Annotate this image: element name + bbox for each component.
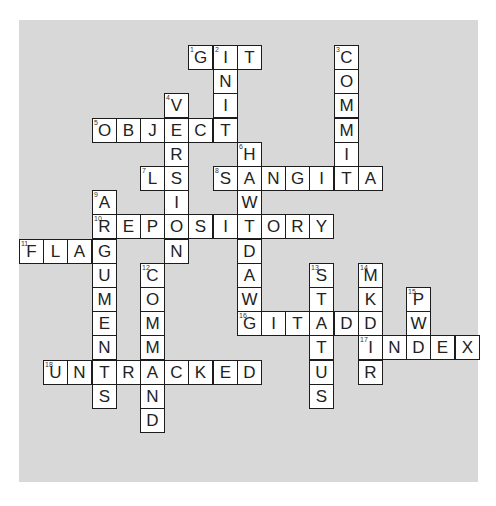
crossword-cell[interactable]: N <box>382 335 407 360</box>
crossword-cell[interactable]: 2I <box>213 45 238 70</box>
crossword-cell[interactable]: W <box>237 287 262 312</box>
crossword-cell[interactable]: R <box>116 360 141 385</box>
cell-letter: N <box>93 338 116 358</box>
cell-letter: I <box>262 314 285 334</box>
crossword-cell[interactable]: A <box>358 166 383 191</box>
crossword-cell[interactable]: T <box>285 311 310 336</box>
crossword-cell[interactable]: W <box>406 311 431 336</box>
crossword-cell[interactable]: 15P <box>406 287 431 312</box>
crossword-cell[interactable]: D <box>237 360 262 385</box>
crossword-cell[interactable]: 9A <box>92 190 117 215</box>
crossword-cell[interactable]: G <box>285 166 310 191</box>
crossword-cell[interactable]: D <box>237 239 262 264</box>
crossword-cell[interactable]: O <box>334 69 359 94</box>
crossword-cell[interactable]: T <box>213 118 238 143</box>
cell-letter: P <box>141 217 164 237</box>
crossword-cell[interactable]: J <box>140 118 165 143</box>
crossword-cell[interactable]: A <box>309 311 334 336</box>
crossword-cell[interactable]: A <box>67 239 92 264</box>
crossword-cell[interactable]: D <box>358 311 383 336</box>
crossword-cell[interactable]: 1G <box>188 45 213 70</box>
crossword-cell[interactable]: T <box>237 45 262 70</box>
crossword-cell[interactable]: 11F <box>19 239 44 264</box>
crossword-cell[interactable]: D <box>406 335 431 360</box>
crossword-cell[interactable]: M <box>334 93 359 118</box>
crossword-cell[interactable]: G <box>92 239 117 264</box>
crossword-cell[interactable]: U <box>92 263 117 288</box>
crossword-cell[interactable]: L <box>43 239 68 264</box>
crossword-cell[interactable]: 12C <box>140 263 165 288</box>
crossword-cell[interactable]: 4V <box>164 93 189 118</box>
crossword-cell[interactable]: M <box>140 335 165 360</box>
crossword-cell[interactable]: T <box>334 166 359 191</box>
crossword-cell[interactable]: M <box>334 118 359 143</box>
crossword-cell[interactable]: 13S <box>309 263 334 288</box>
crossword-cell[interactable]: 18U <box>43 360 68 385</box>
crossword-cell[interactable]: 17I <box>358 335 383 360</box>
crossword-cell[interactable]: T <box>92 360 117 385</box>
cell-letter: S <box>310 266 333 286</box>
cell-letter: S <box>310 387 333 407</box>
crossword-cell[interactable]: M <box>92 287 117 312</box>
crossword-cell[interactable]: X <box>455 335 480 360</box>
crossword-cell[interactable]: Y <box>309 214 334 239</box>
crossword-cell[interactable]: R <box>164 142 189 167</box>
cell-letter: K <box>189 363 212 383</box>
crossword-cell[interactable]: E <box>213 360 238 385</box>
crossword-cell[interactable]: T <box>309 287 334 312</box>
crossword-cell[interactable]: K <box>188 360 213 385</box>
crossword-cell[interactable]: O <box>164 214 189 239</box>
crossword-cell[interactable]: 8S <box>213 166 238 191</box>
crossword-grid: 1G2ITNIT3COMMIT4VERSION5OBJC6HAWTDAW16G7… <box>0 0 496 506</box>
crossword-cell[interactable]: T <box>237 214 262 239</box>
crossword-cell[interactable]: I <box>164 190 189 215</box>
cell-letter: U <box>310 363 333 383</box>
crossword-cell[interactable]: R <box>285 214 310 239</box>
crossword-cell[interactable]: N <box>213 69 238 94</box>
crossword-cell[interactable]: M <box>140 311 165 336</box>
crossword-cell[interactable]: K <box>358 287 383 312</box>
crossword-cell[interactable]: O <box>140 287 165 312</box>
crossword-cell[interactable]: I <box>213 93 238 118</box>
crossword-cell[interactable]: I <box>261 311 286 336</box>
crossword-cell[interactable]: N <box>164 239 189 264</box>
crossword-cell[interactable]: N <box>92 335 117 360</box>
crossword-cell[interactable]: A <box>237 166 262 191</box>
crossword-cell[interactable]: E <box>92 311 117 336</box>
crossword-cell[interactable]: 6H <box>237 142 262 167</box>
crossword-cell[interactable]: S <box>309 384 334 409</box>
crossword-cell[interactable]: P <box>140 214 165 239</box>
crossword-cell[interactable]: O <box>261 214 286 239</box>
crossword-cell[interactable]: S <box>164 166 189 191</box>
crossword-cell[interactable]: I <box>334 142 359 167</box>
crossword-cell[interactable]: C <box>188 118 213 143</box>
crossword-cell[interactable]: D <box>334 311 359 336</box>
crossword-cell[interactable]: C <box>164 360 189 385</box>
crossword-cell[interactable]: W <box>237 190 262 215</box>
crossword-cell[interactable]: B <box>116 118 141 143</box>
crossword-cell[interactable]: A <box>140 360 165 385</box>
crossword-cell[interactable]: I <box>213 214 238 239</box>
crossword-cell[interactable]: N <box>67 360 92 385</box>
crossword-cell[interactable]: E <box>116 214 141 239</box>
crossword-cell[interactable]: S <box>188 214 213 239</box>
crossword-cell[interactable]: 3C <box>334 45 359 70</box>
crossword-cell[interactable]: T <box>309 335 334 360</box>
cell-letter: C <box>335 48 358 68</box>
cell-letter: N <box>262 169 285 189</box>
crossword-cell[interactable]: 7L <box>140 166 165 191</box>
crossword-cell[interactable]: I <box>309 166 334 191</box>
crossword-cell[interactable]: N <box>261 166 286 191</box>
crossword-cell[interactable]: R <box>358 360 383 385</box>
crossword-cell[interactable]: A <box>237 263 262 288</box>
crossword-cell[interactable]: 10R <box>92 214 117 239</box>
crossword-cell[interactable]: N <box>140 384 165 409</box>
crossword-cell[interactable]: S <box>92 384 117 409</box>
crossword-cell[interactable]: 14M <box>358 263 383 288</box>
crossword-cell[interactable]: E <box>164 118 189 143</box>
crossword-cell[interactable]: D <box>140 408 165 433</box>
crossword-cell[interactable]: E <box>430 335 455 360</box>
crossword-cell[interactable]: 5O <box>92 118 117 143</box>
crossword-cell[interactable]: U <box>309 360 334 385</box>
crossword-cell[interactable]: 16G <box>237 311 262 336</box>
